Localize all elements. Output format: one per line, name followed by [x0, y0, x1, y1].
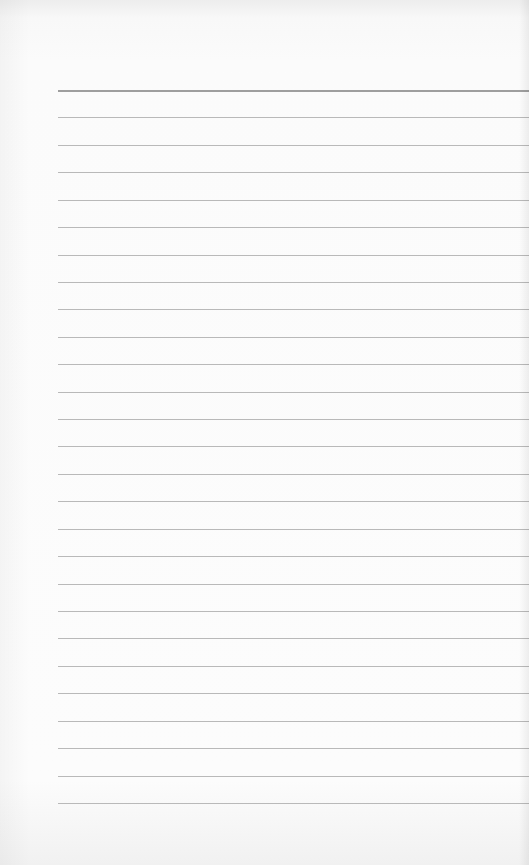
ruled-line	[58, 611, 529, 612]
ruled-line	[58, 529, 529, 530]
ruled-line	[58, 776, 529, 777]
ruled-line	[58, 172, 529, 173]
ruled-line	[58, 200, 529, 201]
ruled-line	[58, 474, 529, 475]
ruled-line	[58, 145, 529, 146]
ruled-line	[58, 227, 529, 228]
ruled-line	[58, 282, 529, 283]
ruled-line	[58, 556, 529, 557]
ruled-line	[58, 309, 529, 310]
ruled-line	[58, 721, 529, 722]
ruled-line	[58, 446, 529, 447]
ruled-line	[58, 90, 529, 92]
ruled-line	[58, 117, 529, 118]
ruled-line	[58, 638, 529, 639]
ruled-line	[58, 501, 529, 502]
ruled-line	[58, 337, 529, 338]
ruled-line	[58, 666, 529, 667]
ruled-line	[58, 584, 529, 585]
ruled-line	[58, 748, 529, 749]
ruled-line	[58, 255, 529, 256]
ruled-line	[58, 392, 529, 393]
ruled-line	[58, 803, 529, 804]
ruled-line	[58, 364, 529, 365]
ruled-line	[58, 693, 529, 694]
notepad-page	[0, 0, 529, 865]
ruled-line	[58, 419, 529, 420]
